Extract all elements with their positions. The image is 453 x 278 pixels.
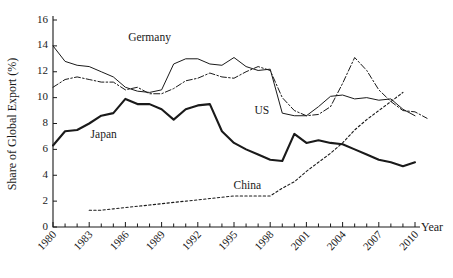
y-tick-label: 4 (43, 168, 49, 180)
x-tick-label: 2001 (288, 228, 312, 252)
series-inline-labels: GermanyUSJapanChina (91, 31, 270, 192)
y-tick-label: 14 (37, 38, 49, 50)
series-label-germany: Germany (128, 31, 171, 44)
series-line-germany (53, 46, 415, 116)
series-label-us: US (254, 104, 269, 116)
x-tick-label: 1992 (179, 228, 203, 252)
x-tick-label: 1995 (216, 228, 240, 253)
x-tick-label: 1980 (35, 228, 59, 253)
x-tick-label: 1983 (71, 228, 95, 253)
export-share-line-chart: 0246810121416 19801983198619891992199519… (0, 0, 453, 278)
x-tick-label: 2004 (324, 228, 348, 253)
x-tick-label: 2007 (360, 228, 384, 253)
series-label-japan: Japan (91, 128, 117, 141)
y-tick-label: 6 (43, 142, 49, 154)
x-axis-title: Year (421, 220, 443, 234)
x-tick-label: 1989 (143, 228, 167, 253)
x-tick-label: 1998 (252, 228, 276, 253)
y-axis-title: Share of Global Export (%) (5, 58, 19, 191)
y-tick-label: 10 (37, 90, 49, 102)
y-tick-label: 8 (43, 116, 49, 128)
chart-svg: 0246810121416 19801983198619891992199519… (0, 0, 453, 278)
x-axis-ticks (53, 222, 415, 227)
series-line-china (89, 92, 403, 210)
y-axis-tick-labels: 0246810121416 (37, 13, 49, 232)
y-tick-label: 2 (43, 194, 49, 206)
series-label-china: China (234, 179, 261, 191)
y-tick-label: 16 (37, 13, 49, 25)
axis-lines (53, 16, 420, 227)
x-tick-label: 1986 (107, 228, 131, 253)
x-tick-label: 2010 (397, 228, 421, 253)
x-axis-tick-labels: 1980198319861989199219951998200120042007… (35, 228, 421, 253)
y-tick-label: 12 (37, 64, 48, 76)
series-line-us (53, 58, 427, 119)
